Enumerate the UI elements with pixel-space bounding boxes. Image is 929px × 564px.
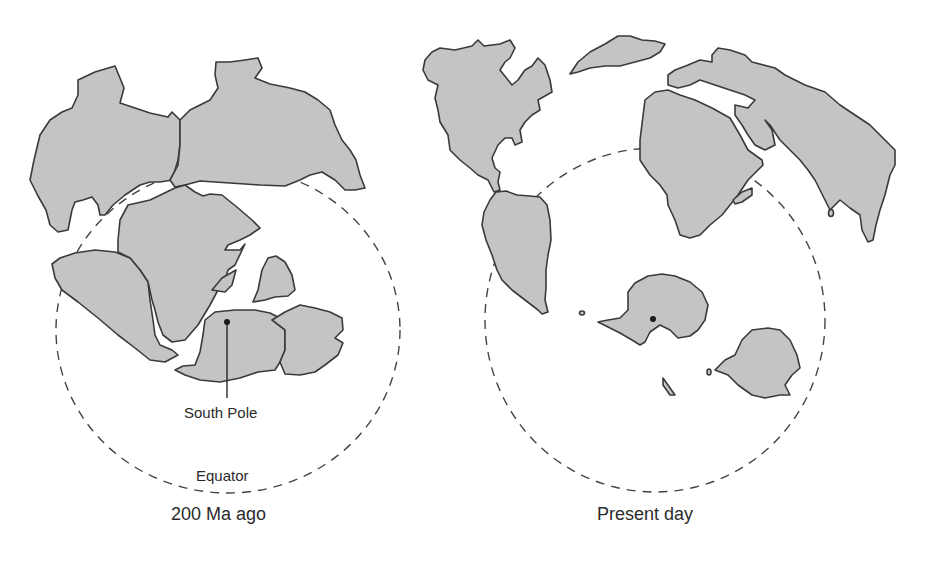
- island-sri-lanka: [829, 210, 834, 217]
- landmass-eurasia: [170, 58, 365, 190]
- caption-present-day: Present day: [597, 504, 693, 525]
- pangaea-map: [30, 58, 400, 493]
- island-tasmania: [707, 369, 711, 375]
- island-new-zealand: [663, 378, 675, 395]
- landmass-india-past: [253, 256, 295, 302]
- south-pole-marker-present: [650, 316, 656, 322]
- equator-label: Equator: [196, 467, 249, 484]
- south-pole-label: South Pole: [184, 404, 257, 421]
- landmass-north-america: [423, 40, 552, 192]
- landmass-south-america: [482, 191, 551, 314]
- landmass-greenland: [570, 36, 665, 74]
- continent-maps: [0, 0, 929, 564]
- landmass-antarctica: [598, 274, 708, 345]
- present-day-map: [423, 36, 895, 492]
- caption-200-ma-ago: 200 Ma ago: [171, 504, 266, 525]
- island-falklands: [580, 311, 585, 315]
- landmass-australia: [715, 328, 800, 398]
